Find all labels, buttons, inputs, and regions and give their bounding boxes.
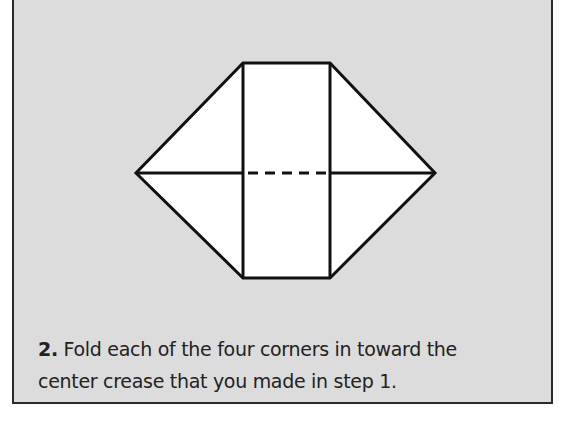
step-text-line-2: center crease that you made in step 1.: [38, 365, 528, 397]
step-number: 2.: [38, 338, 58, 360]
folded-paper-shape: [136, 63, 435, 278]
step-caption: 2. Fold each of the four corners in towa…: [38, 333, 528, 397]
caption-line-1: 2. Fold each of the four corners in towa…: [38, 333, 528, 365]
step-text-line-1: Fold each of the four corners in toward …: [64, 338, 457, 360]
